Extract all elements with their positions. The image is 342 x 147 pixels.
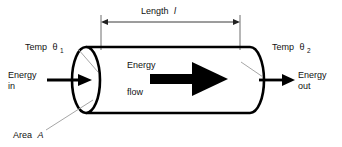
temp-left-text: Temp — [25, 42, 47, 52]
temp-right-symbol: θ — [300, 42, 305, 52]
temp-right-subscript: 2 — [307, 47, 311, 54]
energy-out-label-line2: out — [298, 81, 311, 91]
energy-flow-label-line2: flow — [127, 87, 144, 97]
temp-right-text: Temp — [272, 42, 294, 52]
energy-out-label-line1: Energy — [298, 70, 327, 80]
energy-in-label-line2: in — [8, 81, 15, 91]
length-arrowhead-left — [101, 19, 108, 25]
length-label: Length l — [141, 6, 177, 16]
length-label-symbol: l — [174, 6, 177, 16]
area-label-text: Area — [13, 130, 32, 140]
temp-left-symbol: θ — [53, 42, 58, 52]
energy-in-label-line1: Energy — [8, 70, 37, 80]
temp-left-label: Temp θ 1 — [25, 42, 64, 54]
energy-out-arrowhead — [282, 74, 295, 86]
energy-flow-arrowhead — [192, 62, 228, 96]
area-label-symbol: A — [37, 130, 44, 140]
energy-flow-label-line1: Energy — [127, 60, 156, 70]
leader-line-area — [46, 100, 93, 130]
energy-flow-arrow-shaft — [150, 74, 195, 84]
energy-flow-arrow — [150, 62, 228, 96]
leader-line-temp-right — [241, 62, 263, 77]
temp-right-label: Temp θ 2 — [272, 42, 311, 54]
temp-left-subscript: 1 — [60, 47, 64, 54]
conduction-diagram: Length l Temp θ 1 Temp θ 2 Energy in Ene… — [0, 0, 342, 147]
length-label-text: Length — [141, 6, 169, 16]
length-arrowhead-right — [233, 19, 240, 25]
area-label: Area A — [13, 130, 44, 140]
length-dimension-group — [101, 15, 240, 50]
